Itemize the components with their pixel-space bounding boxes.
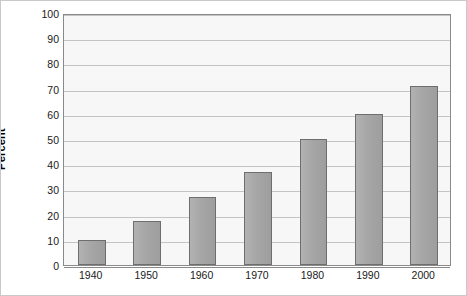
bar bbox=[410, 86, 438, 265]
bar bbox=[300, 139, 328, 265]
bar bbox=[78, 240, 106, 265]
bar-chart: Percent 0102030405060708090100 194019501… bbox=[0, 0, 467, 296]
y-tick-label: 90 bbox=[27, 33, 59, 45]
y-tick-label: 50 bbox=[27, 134, 59, 146]
gridline bbox=[64, 267, 450, 268]
bar bbox=[244, 172, 272, 265]
x-tick-label: 1950 bbox=[134, 269, 157, 281]
bar bbox=[355, 114, 383, 265]
x-tick-label: 2000 bbox=[412, 269, 435, 281]
bar bbox=[133, 221, 161, 265]
bar bbox=[189, 197, 217, 265]
y-tick-label: 10 bbox=[27, 235, 59, 247]
y-tick-label: 100 bbox=[27, 8, 59, 20]
x-tick-label: 1970 bbox=[245, 269, 268, 281]
y-tick-label: 70 bbox=[27, 84, 59, 96]
y-tick-label: 80 bbox=[27, 58, 59, 70]
y-tick-label: 30 bbox=[27, 184, 59, 196]
bars-layer bbox=[64, 15, 450, 265]
x-axis-tick-labels: 1940195019601970198019902000 bbox=[63, 269, 451, 289]
y-tick-label: 60 bbox=[27, 109, 59, 121]
y-tick-label: 0 bbox=[27, 260, 59, 272]
y-tick-label: 20 bbox=[27, 210, 59, 222]
y-tick-label: 40 bbox=[27, 159, 59, 171]
plot-area bbox=[63, 14, 451, 266]
y-axis-tick-labels: 0102030405060708090100 bbox=[27, 14, 59, 266]
x-tick-label: 1960 bbox=[190, 269, 213, 281]
x-tick-label: 1940 bbox=[79, 269, 102, 281]
x-tick-label: 1990 bbox=[356, 269, 379, 281]
x-tick-label: 1980 bbox=[301, 269, 324, 281]
